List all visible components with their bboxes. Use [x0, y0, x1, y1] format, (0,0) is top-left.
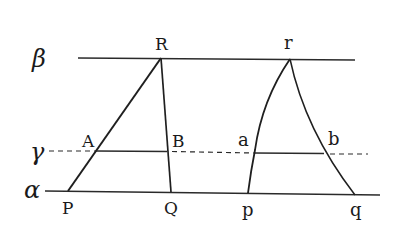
- edge-RP: [68, 58, 161, 191]
- label-R: R: [155, 36, 168, 53]
- parallel-planes-diagram: [0, 0, 397, 236]
- label-a: a: [238, 131, 249, 149]
- edge-RQ: [161, 58, 171, 192]
- label-beta: β: [32, 47, 46, 71]
- label-alpha: α: [24, 178, 40, 202]
- label-A: A: [82, 133, 94, 150]
- label-gamma: γ: [30, 140, 44, 164]
- label-p: p: [242, 201, 254, 219]
- section-AB-line: [96, 151, 167, 152]
- section-ab-line: [254, 153, 324, 154]
- label-B: B: [172, 133, 185, 150]
- edge-rq-curve: [290, 59, 355, 195]
- plane-gamma-dashed-mid: [172, 152, 254, 154]
- plane-alpha-line: [45, 191, 380, 195]
- label-q: q: [350, 201, 362, 219]
- label-b: b: [328, 130, 340, 148]
- plane-beta-line: [78, 58, 355, 60]
- edge-rp-curve: [248, 59, 290, 193]
- label-Q: Q: [164, 200, 178, 217]
- label-P: P: [62, 200, 73, 217]
- label-r: r: [284, 34, 293, 52]
